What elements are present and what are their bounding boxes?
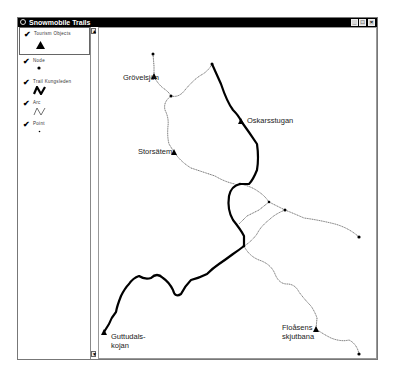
- place-label-line1: Guttudals-: [111, 332, 146, 341]
- app-window: Snowmobile Trails _ □ × ✔ Tourism Object…: [17, 17, 378, 360]
- legend-label: Arc: [33, 100, 41, 105]
- map-view[interactable]: Grövelsjön Oskarsstugan Storsätem Guttud…: [98, 27, 377, 359]
- node-dot: [357, 352, 360, 355]
- legend-label: Tourism Objects: [34, 31, 71, 36]
- legend-list: ✔ Tourism Objects ✔ Node ✔ Trail Kungsle…: [19, 27, 89, 139]
- trail-kungsleden: [104, 64, 258, 332]
- arc-network: [153, 54, 359, 354]
- legend-item-arc[interactable]: ✔ Arc: [19, 97, 89, 118]
- place-floasens-skjutbana[interactable]: Floåsens skjutbana: [282, 323, 314, 341]
- legend-item-trail-kungsleden[interactable]: ✔ Trail Kungsleden: [19, 76, 89, 97]
- legend-item-node[interactable]: ✔ Node: [19, 55, 89, 76]
- place-label: Grövelsjön: [123, 73, 159, 82]
- node-dot: [268, 201, 271, 204]
- checkbox-node[interactable]: ✔: [23, 58, 30, 66]
- place-grovelsjon[interactable]: Grövelsjön: [123, 73, 159, 82]
- place-guttudalskojan[interactable]: Guttudals- kojan: [111, 332, 146, 350]
- node-dot: [152, 53, 155, 56]
- node-dot: [239, 183, 242, 186]
- place-label: Storsätem: [138, 147, 172, 156]
- thin-line-icon: [33, 107, 47, 116]
- close-button[interactable]: ×: [368, 19, 375, 26]
- place-label: Oskarsstugan: [247, 116, 293, 125]
- checkbox-arc[interactable]: ✔: [23, 100, 30, 108]
- legend-item-point[interactable]: ✔ Point: [19, 118, 89, 139]
- legend-label: Trail Kungsleden: [33, 79, 71, 84]
- bold-line-icon: [33, 86, 47, 95]
- checkbox-tourism-objects[interactable]: ✔: [24, 31, 31, 39]
- node-markers: [152, 53, 361, 356]
- node-dot: [284, 209, 287, 212]
- triangle-icon: [36, 41, 45, 49]
- place-label-line1: Floåsens: [282, 323, 312, 332]
- place-storsatem[interactable]: Storsätem: [138, 147, 172, 156]
- dot-icon: [37, 66, 41, 70]
- small-dot-icon: [38, 130, 41, 133]
- checkbox-point[interactable]: ✔: [23, 121, 30, 129]
- legend-label: Node: [33, 58, 45, 63]
- place-label-line2: skjutbana: [282, 332, 314, 341]
- place-label-line2: kojan: [111, 341, 129, 350]
- node-dot: [243, 245, 246, 248]
- node-dot: [211, 63, 214, 66]
- scroll-up-button[interactable]: ▲: [91, 28, 96, 34]
- window-title: Snowmobile Trails: [29, 18, 90, 27]
- app-icon: [20, 19, 26, 25]
- place-oskarsstugan[interactable]: Oskarsstugan: [247, 116, 293, 125]
- tourism-objects: [101, 73, 319, 335]
- legend-scrollbar[interactable]: ▲ ▼: [90, 27, 96, 359]
- legend-label: Point: [33, 121, 45, 126]
- minimize-button[interactable]: _: [351, 19, 358, 26]
- node-dot: [170, 95, 173, 98]
- scroll-down-button[interactable]: ▼: [91, 351, 96, 357]
- maximize-button[interactable]: □: [359, 19, 366, 26]
- node-dot: [357, 235, 360, 238]
- legend-item-tourism-objects[interactable]: ✔ Tourism Objects: [19, 27, 90, 55]
- legend-panel: ✔ Tourism Objects ✔ Node ✔ Trail Kungsle…: [19, 27, 96, 359]
- title-bar[interactable]: Snowmobile Trails _ □ ×: [18, 18, 377, 27]
- checkbox-trail-kungsleden[interactable]: ✔: [23, 79, 30, 87]
